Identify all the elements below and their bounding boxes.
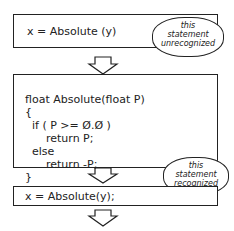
statement-text-2: x = Absolute(y);	[25, 190, 115, 203]
down-arrow-1	[89, 57, 117, 74]
function-code: float Absolute(float P){ if ( P >= Ø.Ø )…	[25, 80, 145, 197]
unrecognized-bubble: this statement unrecognized	[152, 17, 224, 57]
statement-text-1: x = Absolute (y)	[27, 25, 116, 38]
down-arrow-3	[89, 210, 117, 226]
